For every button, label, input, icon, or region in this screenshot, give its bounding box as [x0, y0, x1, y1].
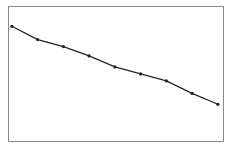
data-point	[113, 65, 116, 68]
data-point	[191, 92, 194, 95]
data-point	[36, 38, 39, 41]
data-point	[62, 45, 65, 48]
data-point	[10, 25, 13, 28]
data-point	[216, 103, 219, 106]
data-point	[139, 72, 142, 75]
line-chart	[0, 0, 228, 149]
data-point	[88, 54, 91, 57]
plot-frame	[9, 7, 224, 142]
data-point	[165, 79, 168, 82]
